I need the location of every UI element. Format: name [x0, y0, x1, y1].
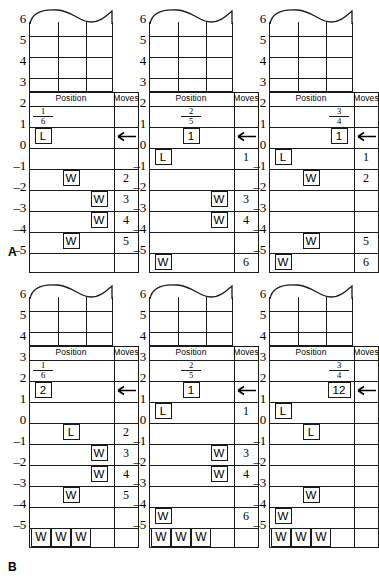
axis-tick: 6 — [242, 283, 266, 304]
axis-tick: 5 — [122, 304, 146, 325]
moves-value: 1 — [353, 147, 379, 168]
axis-tick: –5 — [242, 514, 266, 535]
board-break-wave — [269, 283, 355, 301]
axis-tick: –1 — [122, 155, 146, 176]
fraction-numerator: 3 — [329, 107, 349, 116]
board-row-divider — [30, 311, 112, 312]
marker-w: W — [303, 170, 320, 186]
axis-tick: 1 — [242, 388, 266, 409]
axis-tick: 6 — [122, 8, 146, 29]
table-header-position: Position — [149, 92, 233, 105]
table-header-position: Position — [149, 346, 233, 359]
bottom-w-box: W — [171, 528, 191, 547]
marker-number: 1 — [331, 128, 348, 144]
board-top-grid — [149, 297, 233, 346]
axis-tick: 2 — [122, 367, 146, 388]
axis-tick: 3 — [2, 71, 26, 92]
axis-tick: 3 — [242, 71, 266, 92]
marker-number: 1 — [183, 128, 200, 144]
board-row-divider — [150, 78, 232, 79]
bottom-w-box: W — [311, 528, 331, 547]
board-break-wave — [29, 283, 115, 301]
axis-tick: 4 — [242, 325, 266, 346]
marker-w: W — [91, 445, 108, 461]
marker-w: W — [275, 254, 292, 270]
axis-tick: 2 — [2, 92, 26, 113]
axis-tick: –1 — [122, 430, 146, 451]
marker-w: W — [275, 508, 292, 524]
board-break-wave — [149, 8, 235, 26]
board-row-divider — [270, 332, 352, 333]
board-column-divider — [86, 297, 87, 345]
board-column-divider — [58, 297, 59, 345]
moves-column-divider — [354, 347, 355, 547]
table-header-separator — [270, 106, 378, 107]
board-top-grid — [269, 297, 353, 346]
probability-fraction: 34 — [329, 107, 349, 126]
table-header-position: Position — [269, 92, 353, 105]
axis-tick: –2 — [122, 176, 146, 197]
axis-tick: –4 — [242, 493, 266, 514]
table-row-divider — [270, 190, 378, 191]
marker-w: W — [91, 466, 108, 482]
marker-l: L — [275, 149, 292, 165]
marker-l: L — [155, 403, 172, 419]
marker-w: W — [211, 212, 228, 228]
axis-tick: 1 — [242, 113, 266, 134]
axis-tick: 2 — [242, 367, 266, 388]
axis-tick: –2 — [2, 451, 26, 472]
axis-tick: 3 — [122, 346, 146, 367]
axis-tick: 6 — [122, 283, 146, 304]
marker-w: W — [155, 508, 172, 524]
table-header-moves: Moves — [353, 346, 379, 359]
bottom-w-strip: WWW — [269, 528, 353, 548]
marker-w: W — [303, 487, 320, 503]
moves-column-divider — [234, 93, 235, 272]
fraction-denominator: 4 — [329, 370, 349, 380]
board-row-divider — [270, 36, 352, 37]
board-row-divider — [150, 57, 232, 58]
axis-tick: –3 — [242, 472, 266, 493]
axis-tick: –2 — [242, 176, 266, 197]
fraction-denominator: 6 — [33, 370, 53, 380]
axis-tick: 2 — [242, 92, 266, 113]
board-break-wave — [269, 8, 355, 26]
axis-tick: –1 — [2, 155, 26, 176]
axis-tick: –3 — [2, 197, 26, 218]
axis-tick: 5 — [242, 29, 266, 50]
board-row-divider — [150, 311, 232, 312]
axis-tick: –4 — [2, 493, 26, 514]
axis-tick: –3 — [122, 197, 146, 218]
bottom-w-strip: WWW — [149, 528, 233, 548]
marker-l: L — [63, 424, 80, 440]
table-row-divider — [270, 211, 378, 212]
axis-tick: 5 — [242, 304, 266, 325]
table-row-divider — [270, 444, 378, 445]
axis-tick: 2 — [122, 92, 146, 113]
axis-tick: 3 — [242, 346, 266, 367]
board-row-divider — [270, 57, 352, 58]
marker-w: W — [155, 254, 172, 270]
board-row-divider — [30, 36, 112, 37]
axis-tick: 2 — [2, 367, 26, 388]
axis-tick: 0 — [122, 409, 146, 430]
fraction-numerator: 2 — [181, 361, 201, 370]
axis-tick: –5 — [242, 239, 266, 260]
group-label-a: A — [8, 245, 17, 259]
board-top-grid — [149, 22, 233, 92]
marker-w: W — [91, 212, 108, 228]
board-row-divider — [150, 332, 232, 333]
axis-tick: 3 — [122, 71, 146, 92]
board-column-divider — [206, 297, 207, 345]
marker-l: L — [35, 128, 52, 144]
table-row-divider — [270, 465, 378, 466]
axis-tick: –1 — [242, 430, 266, 451]
fraction-numerator: 2 — [181, 107, 201, 116]
marker-w: W — [211, 191, 228, 207]
panel-b2: 6543210–1–2–3–4–5PositionMoves251LWWW134… — [122, 283, 235, 565]
fraction-denominator: 5 — [181, 116, 201, 126]
axis-tick: 1 — [2, 388, 26, 409]
axis-tick: 0 — [122, 134, 146, 155]
bottom-w-box: W — [291, 528, 311, 547]
